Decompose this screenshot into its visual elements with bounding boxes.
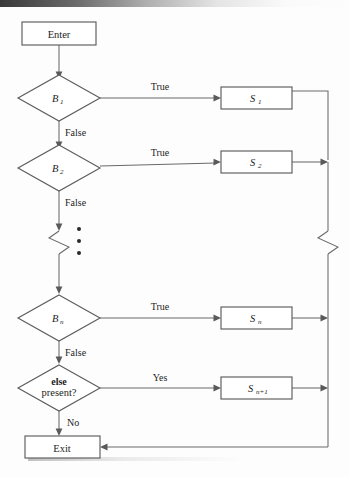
vertical-ellipsis — [77, 227, 81, 255]
node-b2-label: B — [52, 163, 59, 174]
node-sn-label: S — [250, 313, 256, 324]
edge-label-false-1: False — [65, 127, 87, 138]
node-bn-label: B — [52, 313, 59, 324]
edge-sn1-to-right-spine — [292, 385, 328, 392]
edge-bn-true-to-sn — [100, 315, 221, 322]
node-enter[interactable]: Enter — [22, 22, 96, 45]
edge-b1-true-to-s1 — [100, 95, 221, 102]
node-b1[interactable]: B 1 — [18, 75, 100, 121]
edge-sn-to-right-spine — [292, 315, 328, 322]
edge-label-false-2: False — [65, 197, 87, 208]
edge-label-true-n: True — [151, 301, 170, 312]
edge-label-yes: Yes — [153, 372, 168, 383]
node-exit[interactable]: Exit — [25, 436, 100, 458]
node-s1[interactable]: S 1 — [221, 87, 292, 109]
node-b1-subscript: 1 — [60, 98, 64, 106]
break-symbol-right-spine — [318, 231, 338, 254]
node-enter-label: Enter — [48, 29, 71, 40]
edge-label-true-2: True — [151, 147, 170, 158]
edge-s2-to-right-spine — [292, 159, 328, 166]
edge-right-spine-to-exit — [100, 444, 328, 451]
edge-else-no-to-exit — [56, 411, 63, 436]
node-else-keyword: else — [51, 376, 67, 387]
edge-else-yes-to-sn1 — [100, 385, 221, 392]
node-b2[interactable]: B 2 — [18, 145, 100, 191]
edge-break-to-bn — [56, 254, 63, 294]
node-sn[interactable]: S n — [221, 307, 292, 329]
flowchart-page: Enter B 1 B 2 B n else present? — [0, 0, 349, 477]
node-exit-label: Exit — [53, 443, 71, 454]
edge-label-no: No — [67, 417, 79, 428]
node-s1-subscript: 1 — [258, 98, 262, 106]
node-bn-subscript: n — [60, 318, 64, 326]
break-symbol-left-spine — [49, 231, 69, 254]
node-s2-label: S — [250, 157, 256, 168]
node-else-question: present? — [42, 387, 77, 398]
node-sn1-label: S — [248, 383, 254, 394]
edge-label-false-n: False — [65, 347, 87, 358]
node-b2-subscript: 2 — [60, 168, 64, 176]
flowchart-canvas: Enter B 1 B 2 B n else present? — [0, 0, 349, 477]
edge-b2-false-to-break — [56, 191, 63, 231]
edge-b2-true-to-s2 — [100, 159, 221, 166]
node-sn1-subscript: n+1 — [256, 388, 268, 396]
node-s2-subscript: 2 — [258, 162, 262, 170]
node-bn[interactable]: B n — [18, 295, 100, 341]
edge-bn-false-to-else — [56, 341, 63, 364]
node-else-present[interactable]: else present? — [18, 365, 100, 411]
node-sn1[interactable]: S n+1 — [221, 377, 292, 399]
node-sn-subscript: n — [258, 318, 262, 326]
edge-label-true-1: True — [151, 81, 170, 92]
node-b1-label: B — [52, 93, 59, 104]
node-s2[interactable]: S 2 — [221, 151, 292, 173]
node-s1-label: S — [250, 93, 256, 104]
edge-enter-to-b1 — [56, 45, 63, 79]
edge-s1-to-right-spine — [292, 91, 328, 160]
